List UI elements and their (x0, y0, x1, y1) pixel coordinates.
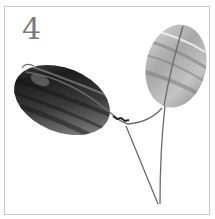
light-stone (138, 19, 214, 114)
dark-stone (4, 52, 121, 149)
stones-on-wire-illustration (0, 0, 215, 219)
